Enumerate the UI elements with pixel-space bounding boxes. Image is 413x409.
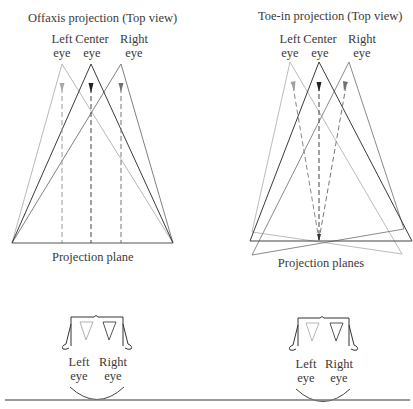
label-line: eye xyxy=(294,371,318,385)
toein-right-eye-axis xyxy=(319,86,346,240)
toein-title: Toe-in projection (Top view) xyxy=(258,9,402,23)
offaxis-head-right-eye-label: Right eye xyxy=(97,355,129,383)
toein-right-eye-label: Right eye xyxy=(342,32,382,60)
label-line: Left xyxy=(67,355,91,369)
label-line: eye xyxy=(299,46,341,60)
label-line: Center xyxy=(71,32,113,46)
label-line: Center xyxy=(299,32,341,46)
label-line: eye xyxy=(342,46,382,60)
label-line: eye xyxy=(97,369,129,383)
offaxis-left-eye-frustum xyxy=(12,64,173,243)
toein-center-arrow-icon xyxy=(317,82,322,92)
stereo-projection-diagram xyxy=(0,0,413,409)
label-line: Right xyxy=(323,357,355,371)
toein-left-eye-frustum xyxy=(252,62,402,254)
label-line: Left xyxy=(294,357,318,371)
toein-right-eye-frustum xyxy=(252,62,404,255)
toein-head-right-eye-label: Right eye xyxy=(323,357,355,385)
offaxis-panel xyxy=(12,64,173,400)
toein-left-eye-axis xyxy=(293,86,319,240)
toein-panel xyxy=(250,62,412,402)
label-line: Right xyxy=(97,355,129,369)
offaxis-right-eye-label: Right eye xyxy=(114,32,154,60)
toein-left-arrow-icon xyxy=(291,81,296,91)
toein-center-eye-frustum xyxy=(250,62,412,241)
offaxis-head-left-eye-label: Left eye xyxy=(67,355,91,383)
offaxis-plane-label: Projection plane xyxy=(52,250,132,264)
offaxis-right-arrow-icon xyxy=(119,83,124,92)
offaxis-center-eye-label: Center eye xyxy=(71,32,113,60)
offaxis-title: Offaxis projection (Top view) xyxy=(28,11,177,25)
offaxis-left-arrow-icon xyxy=(60,83,65,92)
label-line: eye xyxy=(71,46,113,60)
offaxis-center-eye-frustum xyxy=(12,64,173,243)
label-line: Right xyxy=(342,32,382,46)
offaxis-center-arrow-icon xyxy=(89,83,94,93)
toein-plane-label: Projection planes xyxy=(276,256,366,270)
toein-convergence-arrow-icon xyxy=(317,234,321,241)
label-line: eye xyxy=(67,369,91,383)
label-line: Right xyxy=(114,32,154,46)
label-line: eye xyxy=(114,46,154,60)
toein-head-left-eye-label: Left eye xyxy=(294,357,318,385)
toein-center-eye-label: Center eye xyxy=(299,32,341,60)
offaxis-right-eye-frustum xyxy=(12,64,173,243)
label-line: eye xyxy=(323,371,355,385)
